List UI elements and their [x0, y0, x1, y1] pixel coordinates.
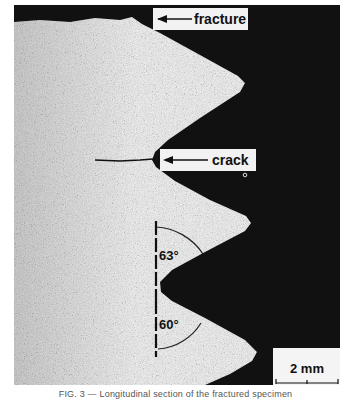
- fracture-text: fracture: [194, 11, 246, 27]
- angle-60-text: 60°: [159, 317, 179, 332]
- fracture-label: fracture: [153, 8, 248, 30]
- micrograph-figure: fracture crack 63° 60° 2 mm: [0, 0, 351, 388]
- crack-text: crack: [212, 152, 249, 168]
- angle-63-text: 63°: [159, 248, 179, 263]
- figure-caption: FIG. 3 — Longitudinal section of the fra…: [0, 389, 351, 399]
- scale-bar: 2 mm: [273, 348, 340, 385]
- crack-label: crack: [160, 149, 256, 171]
- scale-bar-text: 2 mm: [290, 361, 324, 376]
